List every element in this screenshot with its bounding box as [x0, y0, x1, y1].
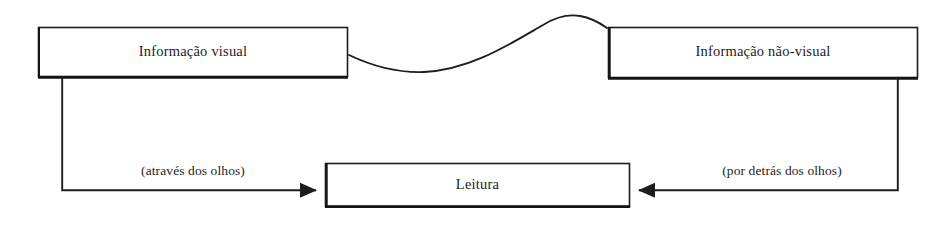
diagram-vector-layer [0, 0, 950, 230]
node-leitura[interactable] [325, 163, 630, 207]
arrow-visual-to-leitura [62, 77, 316, 190]
node-informacao-nao-visual[interactable] [608, 27, 918, 78]
node-informacao-visual[interactable] [38, 27, 348, 77]
arrow-nao-visual-to-leitura [639, 78, 898, 190]
wavy-connector [349, 15, 607, 72]
node-leitura-border [326, 164, 630, 207]
diagram-canvas: Informação visual Informação não-visual … [0, 0, 950, 230]
node-informacao-visual-border [39, 28, 348, 77]
node-informacao-nao-visual-border [609, 28, 918, 78]
